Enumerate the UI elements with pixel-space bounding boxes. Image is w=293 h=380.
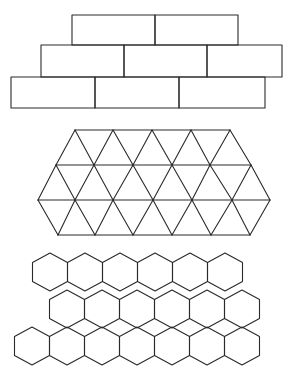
hexagon [208, 253, 243, 291]
triangle-edge [94, 130, 113, 165]
hexagon [190, 290, 225, 328]
triangle-edge [210, 130, 230, 165]
triangle-edge [133, 130, 152, 165]
hexagon [120, 290, 155, 328]
brick [41, 45, 124, 77]
hexagon [155, 327, 190, 365]
hexagon [138, 253, 173, 291]
hexagon [155, 290, 190, 328]
triangle-edge [230, 130, 251, 165]
triangle-edge [192, 200, 211, 235]
hexagon [225, 290, 260, 328]
triangle-edge [133, 165, 153, 200]
tessellation-figure [0, 0, 293, 380]
triangle-edge [172, 200, 192, 235]
brick [95, 77, 179, 108]
triangle-edge [211, 200, 232, 235]
hexagon [68, 253, 103, 291]
triangle-edge [172, 130, 191, 165]
triangle-edge [232, 165, 251, 200]
triangle-edge [192, 165, 210, 200]
triangle-edge [251, 165, 270, 200]
triangle-edge [56, 130, 75, 165]
triangle-edge [113, 165, 133, 200]
brick [124, 45, 207, 77]
brick [179, 77, 265, 108]
brick-tiling-panel [11, 15, 282, 108]
triangle-edge [38, 200, 58, 235]
brick [155, 15, 238, 45]
triangle-edge [153, 200, 172, 235]
hexagon [33, 253, 68, 291]
triangle-edge [75, 130, 94, 165]
triangle-edge [152, 130, 172, 165]
triangle-edge [38, 165, 56, 200]
triangle-edge [133, 200, 153, 235]
triangle-edge [232, 200, 250, 235]
triangle-edge [56, 165, 75, 200]
hexagon [173, 253, 208, 291]
triangle-edge [75, 200, 95, 235]
hexagon [85, 327, 120, 365]
triangle-edge [94, 165, 113, 200]
triangle-tiling-panel [38, 130, 270, 235]
triangle-edge [210, 165, 232, 200]
triangle-edge [153, 165, 172, 200]
hexagon [190, 327, 225, 365]
triangle-edge [172, 165, 192, 200]
hexagon-tiling-panel [15, 253, 260, 365]
triangle-edge [191, 130, 210, 165]
hexagon [120, 327, 155, 365]
hexagon [50, 290, 85, 328]
brick [11, 77, 95, 108]
triangle-edge [75, 165, 94, 200]
triangle-edge [58, 200, 75, 235]
hexagon [15, 327, 50, 365]
hexagon [85, 290, 120, 328]
brick [72, 15, 155, 45]
hexagon [50, 327, 85, 365]
brick [207, 45, 282, 77]
hexagon [225, 327, 260, 365]
hexagon [103, 253, 138, 291]
triangle-edge [113, 200, 133, 235]
triangle-edge [95, 200, 113, 235]
triangle-edge [250, 200, 270, 235]
triangle-edge [113, 130, 133, 165]
